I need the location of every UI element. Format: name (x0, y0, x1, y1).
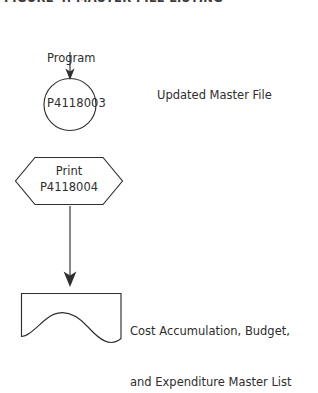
output-document-label-line1: Cost Accumulation, Budget, (130, 323, 292, 340)
program-annotation-line2: P4118003 (47, 96, 106, 111)
program-annotation: Program P4118003 (47, 21, 106, 141)
output-document-label: Cost Accumulation, Budget, and Expenditu… (130, 289, 292, 393)
page-heading: FIGURE 4. MASTER FILE LISTING (4, 0, 314, 5)
program-annotation-line1: Program (47, 51, 106, 66)
print-hexagon-line2: P4118004 (15, 179, 123, 195)
arrow-hexagon-to-document-icon (64, 206, 77, 287)
output-document-label-line2: and Expenditure Master List (130, 374, 292, 391)
print-hexagon-text: Print P4118004 (15, 163, 123, 195)
print-hexagon-line1: Print (15, 163, 123, 179)
output-document-shape (22, 294, 122, 343)
updated-master-file-label: Updated Master File (157, 88, 272, 103)
